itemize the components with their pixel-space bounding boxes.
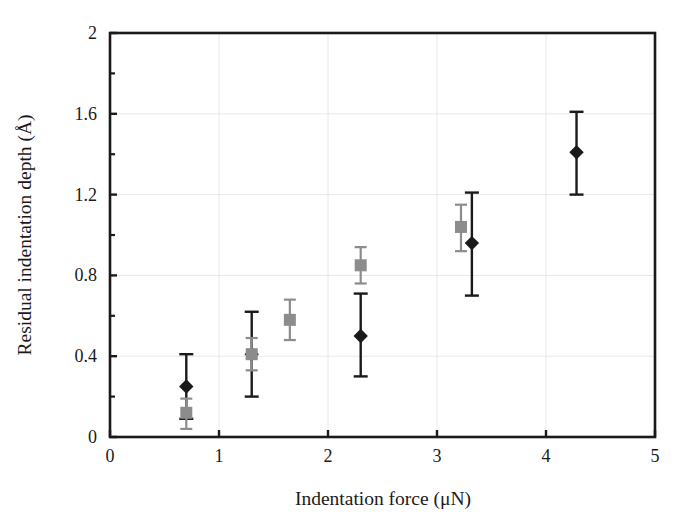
marker-square [180,407,192,419]
x-tick-label: 2 [324,446,333,466]
marker-square [455,221,467,233]
y-tick-label: 0.4 [75,346,98,366]
x-tick-label: 1 [215,446,224,466]
x-tick-label: 5 [651,446,660,466]
marker-square [355,259,367,271]
y-tick-label: 0.8 [75,265,98,285]
x-tick-label: 4 [542,446,551,466]
chart-background [0,0,682,524]
marker-square [284,314,296,326]
marker-square [246,348,258,360]
x-tick-label: 3 [433,446,442,466]
y-tick-label: 0 [88,427,97,447]
figure-container: 012345 00.40.81.21.62 Indentation force … [0,0,682,524]
x-axis-title: Indentation force (μN) [295,488,471,510]
y-tick-label: 1.2 [75,185,98,205]
y-tick-label: 1.6 [75,104,98,124]
y-axis-title: Residual indentation depth (Å) [14,115,36,356]
indentation-scatter-chart: 012345 00.40.81.21.62 Indentation force … [0,0,682,524]
x-tick-label: 0 [106,446,115,466]
y-tick-label: 2 [88,23,97,43]
